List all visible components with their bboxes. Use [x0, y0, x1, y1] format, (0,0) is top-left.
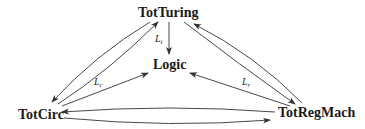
edge-totcirc-totturing: [58, 22, 158, 104]
edge-totregmach-totcirc: [62, 108, 275, 112]
edge-totturing-totcirc: [52, 22, 150, 102]
node-logic: Logic: [153, 58, 186, 72]
edge-label-lt-sub: t: [161, 38, 163, 46]
edge-label-lc-sub: c: [100, 81, 103, 89]
edge-totcirc-logic: [62, 73, 148, 106]
node-totcirc: TotCirc: [18, 108, 64, 122]
edge-label-lr: Lr: [242, 77, 250, 89]
edge-totturing-totregmach: [184, 22, 295, 104]
edge-label-lt: Lt: [155, 34, 163, 46]
edge-totregmach-totturing: [194, 24, 302, 103]
edge-label-lc: Lc: [94, 77, 103, 89]
diagram-canvas: TotTuring Logic TotCirc TotRegMach Lt Lc…: [0, 0, 365, 129]
node-totturing: TotTuring: [138, 6, 198, 20]
node-totregmach: TotRegMach: [278, 106, 355, 120]
edge-label-lr-sub: r: [248, 81, 251, 89]
edge-totcirc-totregmach: [64, 118, 270, 124]
